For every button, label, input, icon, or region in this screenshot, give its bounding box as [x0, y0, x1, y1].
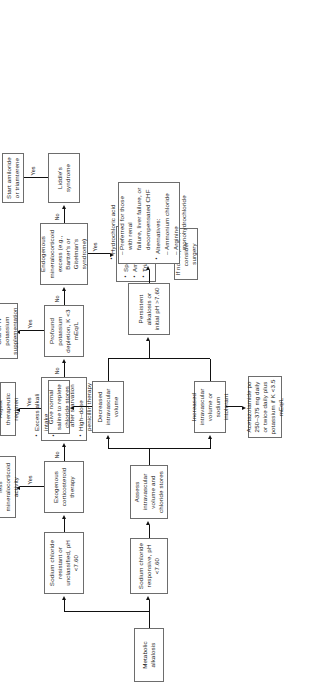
list-item: failure, liver failure, or: [135, 186, 143, 254]
list-item: decompensated CHF: [144, 186, 152, 254]
node-label: Adjust therapeutic regimen: [0, 385, 20, 433]
node-exogenous-corticosteroid: Exogenous corticosteroid therapy: [44, 461, 84, 513]
edge-label-yes-2: Yes: [26, 397, 32, 407]
edge-root-to-responsive: [149, 600, 150, 612]
node-label: Assess intravascular volume and chloride…: [133, 468, 166, 516]
edge-steroid-yes: [20, 486, 44, 487]
edge-steroid-no: [64, 447, 65, 461]
node-assess-volume: Assess intravascular volume and chloride…: [130, 465, 168, 519]
node-label: Profound potassium depletion, K <3 mEq/L: [48, 308, 81, 354]
list-item: Hydrochloric acid: [109, 186, 117, 254]
node-label: Sodium chloride responsive, pH <7.60: [137, 541, 162, 591]
edge-root-split: [64, 611, 149, 612]
node-nacl-responsive: Sodium chloride responsive, pH <7.60: [130, 538, 168, 594]
edge-decreased-out: [108, 359, 109, 381]
edge-resistant-to-steroid: [64, 519, 65, 532]
node-oral-iv-potassium: Oral or IV potassium supplementation: [0, 303, 18, 359]
edge-decreased-to-saline: [74, 406, 92, 407]
node-label: Increased intravascular volume or sodium…: [190, 384, 231, 430]
node-hydrochloric-acid-options: Hydrochloric acid Preferred for those wi…: [118, 182, 180, 264]
edge-label-yes-4: Yes: [92, 242, 98, 252]
hcl-options-list: Hydrochloric acid Preferred for those wi…: [109, 186, 190, 260]
list-item: Arginine monohydrochloride: [172, 186, 188, 254]
edge-label-no-1: No: [54, 451, 60, 459]
flowchart-canvas: Metabolic alkalosis Sodium chloride resi…: [0, 0, 325, 692]
node-label: Oral or IV potassium supplementation: [0, 306, 19, 356]
node-start-amiloride-triamterene: Start amiloride or triamterene: [2, 153, 24, 203]
edge-liddles-yes: [24, 177, 48, 178]
rotated-figure-wrapper: Metabolic alkalosis Sodium chloride resi…: [0, 0, 325, 692]
edge-label-yes-5: Yes: [30, 166, 36, 176]
node-label: Persistent alkalosis or initial pH >7.60: [137, 286, 162, 332]
edge-assess-to-decreased: [108, 439, 109, 449]
edge-k-no: [64, 291, 65, 305]
edge-endogenous-yes: [88, 253, 110, 254]
node-endogenous-mineralocorticoid-excess: Endogenous mineralocorticoid excess (e.g…: [40, 223, 88, 285]
node-acetazolamide: Acetazolamide po 250–375 mg daily or twi…: [248, 376, 282, 438]
edge-label-no-3: No: [54, 295, 60, 303]
edge-label-yes-1: Yes: [27, 475, 33, 485]
edge-assess-to-increased: [210, 439, 211, 449]
edge-increased-out: [210, 359, 211, 381]
node-give-normal-saline: Give normal saline to replete chloride s…: [48, 380, 70, 434]
node-metabolic-alkalosis: Metabolic alkalosis: [134, 628, 164, 682]
arrow-responsive-to-assess: [146, 521, 150, 525]
node-label: Sodium chloride resistant or unclassifie…: [48, 535, 81, 591]
node-persistent-alkalosis: Persistent alkalosis or initial pH >7.60: [128, 283, 170, 335]
arrow-alkali-no: [62, 359, 66, 363]
arrow-resistant-to-steroid: [62, 515, 66, 519]
edge-root-to-resistant: [64, 600, 65, 612]
list-item: Ammonium chloride: [163, 186, 171, 254]
node-label: Exogenous corticosteroid therapy: [52, 464, 77, 510]
arrow-assess-to-decreased: [106, 435, 110, 439]
node-profound-potassium-depletion: Profound potassium depletion, K <3 mEq/L: [44, 305, 84, 357]
node-liddles-syndrome: Liddle's syndrome: [48, 153, 80, 203]
node-label: Liddle's syndrome: [56, 156, 72, 200]
node-decreased-intravascular-volume: Decreased intravascular volume: [92, 381, 124, 433]
edge-responsive-to-assess: [149, 525, 150, 538]
arrow-steroid-no: [62, 443, 66, 447]
arrow-k-no: [62, 287, 66, 291]
edge-alkali-no: [64, 363, 65, 377]
arrow-assess-to-increased: [208, 435, 212, 439]
edge-converge-to-persistent: [149, 341, 150, 359]
edge-increased-to-acetazolamide: [226, 406, 242, 407]
edge-label-no-2: No: [54, 367, 60, 375]
node-label: Endogenous mineralocorticoid excess (e.g…: [39, 226, 88, 282]
edge-assess-split: [108, 448, 210, 449]
edge-root-stem: [149, 612, 150, 628]
node-label: Metabolic alkalosis: [141, 631, 157, 679]
edge-label-no-4: No: [54, 213, 60, 221]
arrow-root-to-resistant: [62, 596, 66, 600]
node-label: Start amiloride or triamterene: [5, 156, 21, 200]
list-item: Alternatives:: [154, 186, 162, 254]
node-label: Decreased intravascular volume: [96, 384, 121, 430]
edge-converge: [108, 358, 210, 359]
arrow-root-to-responsive: [146, 596, 150, 600]
arrow-endogenous-no: [62, 205, 66, 209]
node-label: Give normal saline to replete chloride s…: [47, 383, 72, 431]
node-decrease-dose: Decrease dose or change to one with less…: [0, 456, 16, 518]
list-item: Preferred for those with renal: [118, 186, 134, 254]
edge-label-yes-3: Yes: [27, 319, 33, 329]
edge-endogenous-no: [64, 209, 65, 223]
arrow-converge-to-persistent: [146, 337, 150, 341]
node-nacl-resistant: Sodium chloride resistant or unclassifie…: [44, 532, 84, 594]
node-label: Acetazolamide po 250–375 mg daily or twi…: [245, 379, 286, 435]
node-increased-intravascular-volume: Increased intravascular volume or sodium…: [194, 381, 226, 433]
edge-k-yes: [20, 330, 44, 331]
arrow-persistent-to-hcl: [146, 266, 150, 270]
edge-persistent-to-hcl: [149, 270, 150, 283]
node-label: Decrease dose or change to one with less…: [0, 459, 20, 515]
node-adjust-regimen: Adjust therapeutic regimen: [0, 382, 16, 436]
edge-alkali-yes: [20, 408, 41, 409]
edge-assess-stem: [149, 449, 150, 465]
